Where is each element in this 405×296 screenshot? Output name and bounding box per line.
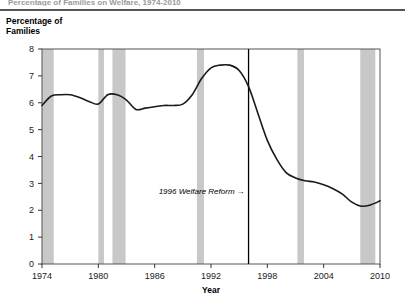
y-axis-ticks: 012345678 [29,44,42,269]
y-tick-label: 0 [29,259,34,269]
x-tick-label: 1980 [88,271,108,281]
chart-figure: 012345678 1974198019861992199820042010 1… [0,0,405,296]
plot-border [42,49,380,264]
welfare-reform-annotation-label: 1996 Welfare Reform [159,187,235,196]
plot-frame [42,49,380,264]
data-series-line [42,65,380,207]
y-tick-label: 5 [29,125,34,135]
recession-band [297,49,304,264]
y-tick-label: 2 [29,205,34,215]
x-tick-label: 1974 [32,271,52,281]
x-axis-title: Year [202,285,221,295]
recession-band [42,49,54,264]
y-tick-label: 7 [29,71,34,81]
y-tick-label: 3 [29,179,34,189]
recession-band [112,49,125,264]
x-tick-label: 2004 [314,271,334,281]
y-tick-label: 8 [29,44,34,54]
x-tick-label: 1998 [257,271,277,281]
recession-band [360,49,375,264]
x-tick-label: 1992 [201,271,221,281]
x-tick-label: 1986 [145,271,165,281]
y-tick-label: 6 [29,98,34,108]
x-tick-label: 2010 [370,271,390,281]
recession-band [98,49,104,264]
recession-band-group [42,49,375,264]
welfare-reform-annotation-arrow-icon: → [237,187,245,196]
y-tick-label: 1 [29,232,34,242]
y-tick-label: 4 [29,152,34,162]
welfare-percentage-line-chart: 012345678 1974198019861992199820042010 1… [0,0,405,296]
x-axis-ticks: 1974198019861992199820042010 [32,264,390,281]
